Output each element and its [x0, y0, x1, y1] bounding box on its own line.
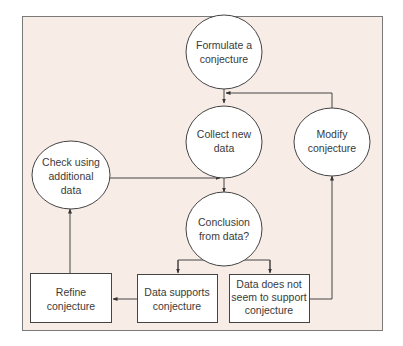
node-label: Data does not	[236, 278, 301, 290]
node-label: data	[214, 142, 235, 154]
node-data-supports: Data supports conjecture	[138, 275, 218, 323]
node-label: conjecture	[308, 142, 357, 154]
node-label: additional	[49, 170, 94, 182]
node-label: conjecture	[47, 300, 96, 312]
node-label: conjecture	[153, 300, 202, 312]
node-label: Collect new	[197, 128, 252, 140]
node-label: Refine	[56, 286, 87, 298]
node-label: Check using	[42, 156, 100, 168]
node-conclusion: Conclusion from data?	[186, 192, 262, 266]
node-modify-conjecture: Modify conjecture	[294, 108, 370, 176]
node-label: Formulate a	[196, 39, 252, 51]
node-label: conjecture	[245, 304, 294, 316]
node-label: data	[61, 184, 82, 196]
flowchart: Formulate a conjecture Collect new data …	[0, 0, 403, 346]
node-check-additional-data: Check using additional data	[32, 141, 110, 209]
node-label: Conclusion	[198, 216, 250, 228]
node-label: Data supports	[144, 286, 209, 298]
node-formulate-conjecture: Formulate a conjecture	[186, 15, 262, 89]
node-data-not-support: Data does not seem to support conjecture	[230, 275, 310, 323]
node-refine-conjecture: Refine conjecture	[31, 274, 112, 323]
node-label: conjecture	[200, 53, 249, 65]
node-label: from data?	[199, 230, 249, 242]
node-label: Modify	[317, 128, 349, 140]
node-collect-new-data: Collect new data	[186, 106, 262, 178]
node-label: seem to support	[231, 291, 306, 303]
